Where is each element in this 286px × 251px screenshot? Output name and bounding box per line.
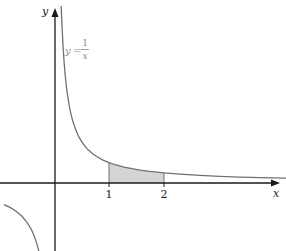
hyperbola-diagram: y x 1 2 y = 1 x	[0, 0, 286, 251]
curve-label-lhs: y	[64, 45, 71, 56]
x-axis-arrow-icon	[271, 180, 280, 187]
curve-label-denominator: x	[82, 51, 87, 61]
x-axis-label: x	[273, 187, 280, 200]
curve-label-numerator: 1	[82, 38, 88, 48]
curve-label: y = 1 x	[64, 38, 89, 61]
tick-label-1: 1	[106, 188, 113, 201]
curve-label-equals: =	[73, 45, 81, 56]
y-axis-arrow-icon	[52, 8, 59, 17]
curve-upper-branch	[61, 6, 286, 178]
curve-lower-branch	[4, 205, 39, 251]
tick-label-2: 2	[161, 188, 168, 201]
y-axis-label: y	[41, 5, 49, 18]
